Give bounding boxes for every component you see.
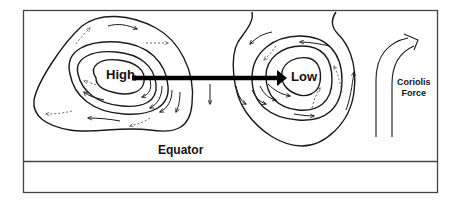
weather-diagram	[0, 0, 461, 204]
equator-label: Equator	[158, 143, 203, 157]
coriolis-label-line2: Force	[397, 88, 431, 99]
high-pressure-label: High	[106, 67, 135, 82]
low-pressure-label: Low	[291, 69, 317, 84]
coriolis-label-line1: Coriolis	[397, 77, 431, 88]
coriolis-force-label: Coriolis Force	[397, 77, 431, 99]
